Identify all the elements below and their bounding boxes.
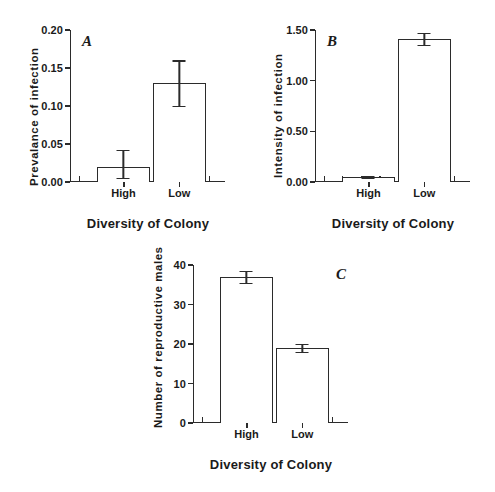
- panel-b-y-axis: [315, 30, 316, 182]
- panel-c-ylabel: Number of reproductive males: [152, 246, 164, 428]
- panel-a-letter: A: [82, 34, 92, 49]
- panel-b-letter: B: [327, 34, 337, 49]
- panel-a-ylabel: Prevalance of infection: [28, 47, 40, 186]
- error-bar-a-low: [179, 60, 180, 106]
- y-tick-b-1: [310, 131, 315, 132]
- x-minor-tick-b-7: [454, 176, 455, 182]
- y-tick-a-3: [65, 67, 70, 68]
- y-tick-c-2: [188, 343, 193, 344]
- panel-c-y-axis: [193, 265, 194, 423]
- y-tick-a-2: [65, 105, 70, 106]
- error-cap-c-low-upper: [296, 344, 309, 345]
- error-bar-c-high: [246, 271, 247, 283]
- error-cap-b-high-lower: [362, 178, 375, 179]
- error-bar-a-high: [123, 150, 124, 178]
- error-cap-c-low-lower: [296, 352, 309, 353]
- y-tick-label-b-0: 0.00: [286, 177, 308, 188]
- error-bar-b-low: [424, 33, 425, 45]
- bar-b-low: [398, 39, 451, 182]
- y-tick-label-a-3: 0.15: [41, 63, 63, 74]
- y-tick-label-c-4: 40: [174, 260, 186, 271]
- panel-c-xlabel: Diversity of Colony: [210, 457, 332, 472]
- panel-c-letter: C: [336, 267, 346, 282]
- panel-b-xlabel: Diversity of Colony: [332, 216, 454, 231]
- y-tick-c-3: [188, 304, 193, 305]
- error-cap-b-low-lower: [418, 45, 431, 46]
- y-tick-label-a-2: 0.10: [41, 101, 63, 112]
- x-tick-label-c-0: High: [234, 429, 258, 440]
- y-tick-label-b-1: 0.50: [286, 126, 308, 137]
- y-tick-a-1: [65, 143, 70, 144]
- x-tick-label-a-0: High: [111, 188, 135, 199]
- x-tick-label-b-0: High: [356, 188, 380, 199]
- bar-c-low: [276, 348, 329, 423]
- panel-c-plot-area: C 010203040HighLow: [193, 265, 348, 423]
- y-tick-label-b-2: 1.00: [286, 75, 308, 86]
- error-cap-b-low-upper: [418, 33, 431, 34]
- y-tick-label-c-1: 10: [174, 378, 186, 389]
- y-tick-label-c-2: 20: [174, 339, 186, 350]
- y-tick-label-b-3: 1.50: [286, 25, 308, 36]
- y-tick-b-3: [310, 29, 315, 30]
- y-tick-label-a-1: 0.05: [41, 139, 63, 150]
- panel-a-xlabel: Diversity of Colony: [87, 216, 209, 231]
- y-tick-label-c-3: 30: [174, 299, 186, 310]
- x-minor-tick-b-0: [324, 176, 325, 182]
- panel-b-ylabel: Intensity of infection: [272, 53, 284, 178]
- x-minor-tick-a-7: [209, 176, 210, 182]
- y-tick-label-a-0: 0.00: [41, 177, 63, 188]
- y-tick-c-0: [188, 422, 193, 423]
- y-tick-c-1: [188, 383, 193, 384]
- x-minor-tick-a-0: [79, 176, 80, 182]
- y-tick-b-2: [310, 80, 315, 81]
- x-minor-tick-c-7: [332, 417, 333, 423]
- error-cap-a-low-upper: [173, 60, 186, 61]
- y-tick-a-0: [65, 181, 70, 182]
- y-tick-c-4: [188, 264, 193, 265]
- error-cap-a-high-upper: [117, 150, 130, 151]
- x-minor-tick-c-0: [202, 417, 203, 423]
- panel-a-y-axis: [70, 30, 71, 182]
- error-cap-c-high-upper: [240, 271, 253, 272]
- x-tick-label-a-1: Low: [168, 188, 190, 199]
- error-cap-a-low-lower: [173, 106, 186, 107]
- bar-c-high: [220, 277, 273, 423]
- panel-b-plot-area: B 0.000.501.001.50HighLow: [315, 30, 470, 182]
- panel-a-plot-area: A 0.000.050.100.150.20HighLow: [70, 30, 225, 182]
- y-tick-label-c-0: 0: [180, 418, 186, 429]
- y-tick-b-0: [310, 181, 315, 182]
- y-tick-a-4: [65, 29, 70, 30]
- error-cap-a-high-lower: [117, 178, 130, 179]
- error-cap-c-high-lower: [240, 283, 253, 284]
- x-tick-label-b-1: Low: [413, 188, 435, 199]
- x-tick-label-c-1: Low: [291, 429, 313, 440]
- y-tick-label-a-4: 0.20: [41, 25, 63, 36]
